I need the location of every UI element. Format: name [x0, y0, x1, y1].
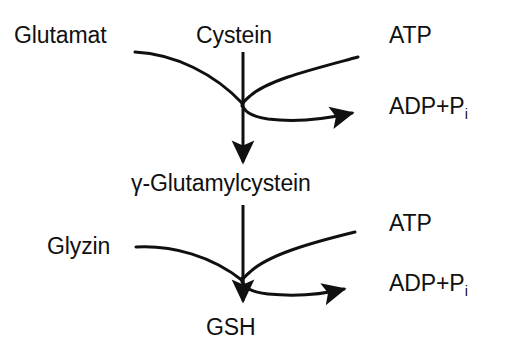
label-adp-pi-bottom-subscript: i: [465, 283, 468, 299]
label-glutamat: Glutamat: [14, 24, 107, 47]
curve-atp-input-bottom: [242, 232, 355, 282]
curve-adp-output-top: [242, 102, 352, 120]
curve-glyzin-input: [136, 247, 243, 281]
label-adp-pi-top-main: ADP+P: [389, 93, 465, 119]
label-glyzin: Glyzin: [47, 235, 110, 258]
curve-atp-input-top: [242, 57, 358, 106]
label-adp-pi-top-subscript: i: [465, 106, 468, 122]
pathway-diagram: Glutamat Cystein ATP ADP+Pi γ-Glutamylcy…: [0, 0, 506, 362]
label-adp-pi-top: ADP+Pi: [389, 95, 468, 118]
label-adp-pi-bottom-main: ADP+P: [389, 270, 465, 296]
curve-adp-output-bottom: [242, 278, 344, 295]
curve-glutamat-input: [135, 52, 243, 104]
label-cystein: Cystein: [196, 24, 272, 47]
label-adp-pi-bottom: ADP+Pi: [389, 272, 468, 295]
label-atp-top: ATP: [389, 24, 432, 47]
label-gsh: GSH: [206, 316, 256, 339]
label-atp-bottom: ATP: [389, 212, 432, 235]
label-gamma-glutamylcystein: γ-Glutamylcystein: [131, 172, 311, 195]
